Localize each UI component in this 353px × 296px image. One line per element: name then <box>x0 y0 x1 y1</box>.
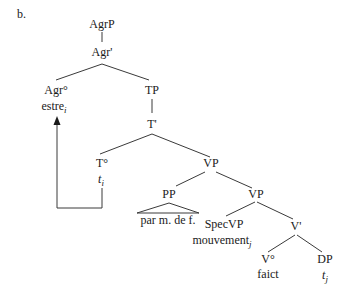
node-dp-trace: tj <box>322 268 328 284</box>
edge-vplower-specvp <box>226 202 255 216</box>
node-vp-lower: VP <box>248 187 264 201</box>
node-specvp: SpecVP <box>205 217 244 231</box>
node-pp-content: par m. de f. <box>141 213 196 227</box>
node-vp-upper: VP <box>203 156 219 170</box>
edge-tbar-thead <box>100 134 152 154</box>
edge-vbar-dp <box>297 235 322 252</box>
edge-agrbar-tp <box>102 64 149 80</box>
arrow-head-icon <box>54 116 61 125</box>
edge-vplower-vbar <box>257 202 293 219</box>
edge-vp-pp <box>176 172 205 186</box>
node-dp: DP <box>317 252 333 266</box>
edge-tbar-vp <box>152 134 210 157</box>
node-v-word: faict <box>257 267 279 281</box>
node-agr-bar: Agr' <box>92 45 113 59</box>
node-agrp: AgrP <box>89 17 115 31</box>
node-t-bar: T' <box>147 117 157 131</box>
node-v-bar: V' <box>291 219 302 233</box>
syntax-tree: b. AgrP Agr' Agr° estrei TP T' T° ti VP … <box>0 0 353 296</box>
node-agr-head: Agr° <box>44 83 68 97</box>
node-t-trace: ti <box>98 172 104 188</box>
edge-agrbar-agrhead <box>56 64 102 80</box>
pp-triangle <box>137 203 199 213</box>
node-v-head: V° <box>261 252 275 266</box>
edge-vbar-vhead <box>268 235 295 252</box>
node-agr-word: estrei <box>41 99 67 115</box>
edge-vp-vplower <box>216 172 252 188</box>
example-label: b. <box>17 7 26 21</box>
node-pp: PP <box>162 187 176 201</box>
node-specvp-word: mouvementj <box>192 233 252 249</box>
node-tp: TP <box>145 83 159 97</box>
node-t-head: T° <box>96 156 108 170</box>
